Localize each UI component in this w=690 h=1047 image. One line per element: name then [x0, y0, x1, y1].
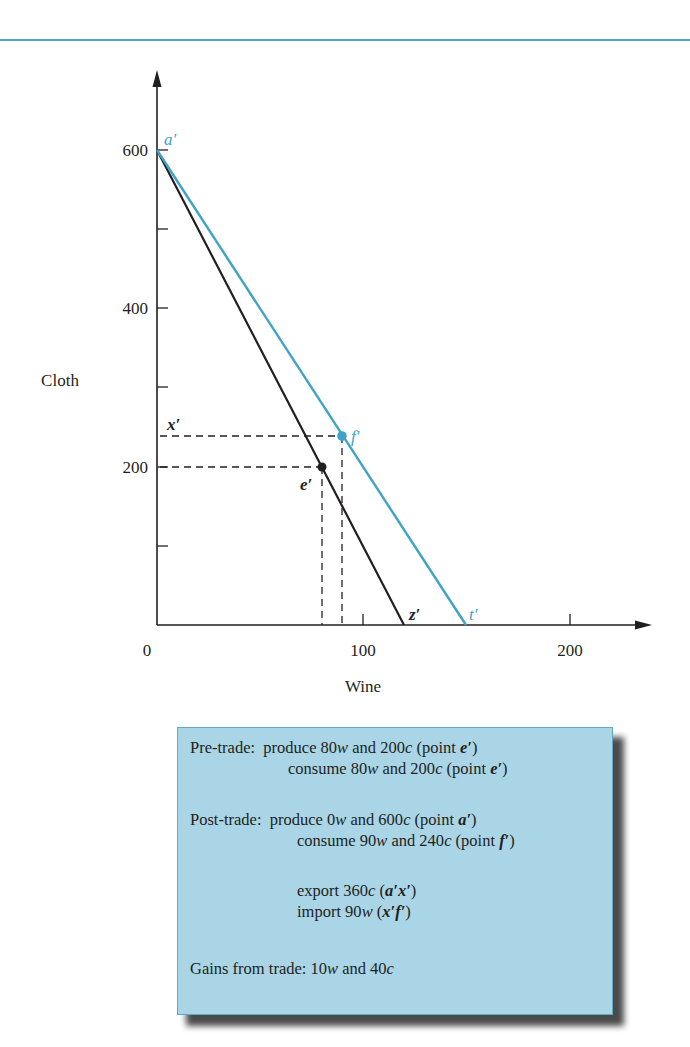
text: w — [337, 738, 348, 757]
text: ) — [502, 759, 508, 778]
text: ) — [472, 738, 478, 757]
text: ( — [375, 881, 385, 900]
point-e — [318, 463, 327, 472]
point-f — [337, 431, 347, 441]
text: produce 0 — [270, 810, 336, 829]
text: (point — [412, 738, 460, 757]
y-tick-600: 600 — [123, 141, 149, 160]
text: a′ — [458, 810, 471, 829]
y-tick-400: 400 — [123, 299, 149, 318]
text: ) — [471, 810, 477, 829]
text: e′ — [490, 759, 502, 778]
post-trade-produce: Post-trade: produce 0w and 600c (point a… — [190, 810, 477, 830]
guide-lines — [160, 436, 342, 625]
text: a′x′ — [385, 881, 411, 900]
pre-trade-consume: consume 80w and 200c (point e′) — [288, 759, 508, 779]
ppf-line — [157, 150, 404, 625]
x-tick-0: 0 — [143, 641, 152, 660]
text: and 240 — [387, 831, 444, 850]
text: ) — [509, 831, 515, 850]
y-tick-200: 200 — [123, 458, 149, 477]
text: and 600 — [346, 810, 403, 829]
text: ) — [405, 902, 411, 921]
text: ) — [411, 881, 417, 900]
trade-line — [157, 150, 466, 625]
label-e: e′ — [300, 475, 312, 494]
text: produce 80 — [263, 738, 337, 757]
y-axis: 600 400 200 Cloth — [41, 70, 168, 625]
text: w — [335, 810, 346, 829]
post-trade-heading: Post-trade: — [190, 810, 262, 829]
label-x: x′ — [166, 415, 180, 434]
trade-summary-box: Pre-trade: produce 80w and 200c (point e… — [177, 727, 613, 1015]
label-a: a′ — [164, 130, 177, 149]
x-axis-arrow-icon — [635, 621, 652, 630]
pre-trade-produce: Pre-trade: produce 80w and 200c (point e… — [190, 738, 477, 758]
label-z: z′ — [408, 605, 420, 624]
trade-chart: 600 400 200 Cloth 0 100 200 Wine a′ x′ f… — [0, 0, 690, 720]
text: f′ — [499, 831, 509, 850]
text: w — [376, 831, 387, 850]
label-f: f′ — [351, 427, 360, 446]
text: (point — [410, 810, 458, 829]
text: (point — [451, 831, 499, 850]
text: w — [362, 902, 373, 921]
text: and 40 — [338, 959, 387, 978]
pre-trade-heading: Pre-trade: — [190, 738, 255, 757]
x-tick-200: 200 — [557, 641, 583, 660]
text: (point — [442, 759, 490, 778]
text: Gains from trade: 10 — [190, 959, 327, 978]
text: consume 90 — [297, 831, 376, 850]
text: w — [327, 959, 338, 978]
text: and 200 — [348, 738, 405, 757]
text: ( — [373, 902, 383, 921]
text: export 360 — [297, 881, 368, 900]
import-line: import 90w (x′f′) — [297, 902, 411, 922]
text: c — [387, 959, 394, 978]
text: w — [367, 759, 378, 778]
export-line: export 360c (a′x′) — [297, 881, 416, 901]
y-axis-arrow-icon — [153, 70, 162, 87]
text: and 200 — [378, 759, 435, 778]
x-axis: 0 100 200 Wine — [143, 614, 652, 696]
text: consume 80 — [288, 759, 367, 778]
y-axis-title: Cloth — [41, 371, 79, 390]
x-axis-title: Wine — [345, 677, 381, 696]
label-t: t′ — [469, 605, 478, 624]
post-trade-consume: consume 90w and 240c (point f′) — [297, 831, 515, 851]
text: e′ — [460, 738, 472, 757]
text: import 90 — [297, 902, 362, 921]
x-tick-100: 100 — [350, 641, 376, 660]
gains-line: Gains from trade: 10w and 40c — [190, 959, 394, 979]
text: x′f′ — [382, 902, 405, 921]
